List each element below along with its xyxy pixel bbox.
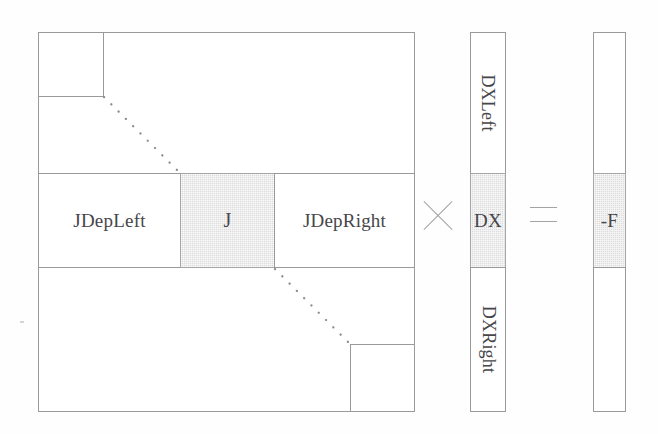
multiply-operator bbox=[421, 198, 455, 232]
rhs-top-segment bbox=[593, 32, 626, 174]
jdepleft-label: JDepLeft bbox=[38, 173, 181, 268]
scan-artifact-speck bbox=[20, 321, 24, 323]
top-left-diagonal-block bbox=[38, 32, 104, 97]
j-label: J bbox=[180, 173, 275, 268]
dx-label: DX bbox=[466, 173, 510, 268]
dxright-label: DXRight bbox=[416, 322, 561, 358]
rhs-bottom-segment bbox=[593, 267, 626, 412]
dxleft-label: DXLeft bbox=[417, 85, 559, 121]
jdepright-label: JDepRight bbox=[274, 173, 415, 268]
upper-diagonal-dots bbox=[103, 96, 181, 174]
lower-diagonal-dots bbox=[274, 268, 352, 346]
minus-f-label: -F bbox=[593, 173, 626, 268]
matrix-equation-diagram: JDepLeft J JDepRight DXLeft DX DXRight bbox=[0, 0, 658, 434]
equals-operator bbox=[530, 207, 557, 223]
bottom-right-diagonal-block bbox=[350, 344, 415, 412]
